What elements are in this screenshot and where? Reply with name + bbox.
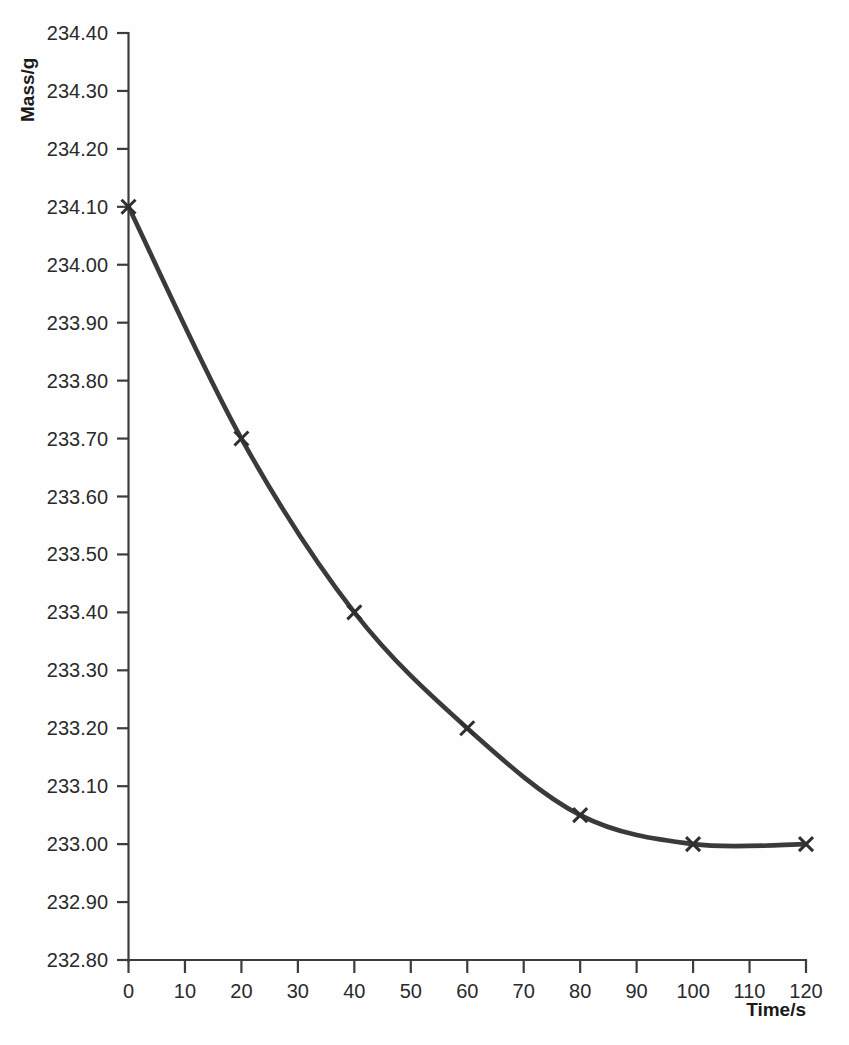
x-tick-label: 80 bbox=[569, 980, 591, 1002]
y-tick-label: 234.40 bbox=[47, 22, 108, 44]
y-tick-label: 233.80 bbox=[47, 370, 108, 392]
y-tick-label: 234.30 bbox=[47, 80, 108, 102]
data-point-marker bbox=[234, 432, 248, 446]
x-tick-label: 90 bbox=[626, 980, 648, 1002]
y-tick-label: 233.20 bbox=[47, 717, 108, 739]
data-point-markers-group bbox=[122, 200, 814, 851]
x-axis-title: Time/s bbox=[746, 999, 806, 1020]
y-tick-label: 234.00 bbox=[47, 254, 108, 276]
y-tick-label: 233.50 bbox=[47, 543, 108, 565]
y-tick-label: 233.70 bbox=[47, 428, 108, 450]
mass-decay-curve bbox=[129, 207, 807, 846]
y-tick-label: 233.60 bbox=[47, 486, 108, 508]
y-tick-label: 233.30 bbox=[47, 659, 108, 681]
mass-vs-time-line-chart: 234.40234.30234.20234.10234.00233.90233.… bbox=[0, 0, 849, 1045]
y-tick-label: 233.00 bbox=[47, 833, 108, 855]
y-tick-label: 234.10 bbox=[47, 196, 108, 218]
x-tick-label: 20 bbox=[230, 980, 252, 1002]
y-axis-title: Mass/g bbox=[17, 58, 38, 122]
x-tick-label: 40 bbox=[343, 980, 365, 1002]
x-tick-label: 30 bbox=[287, 980, 309, 1002]
x-tick-label: 0 bbox=[123, 980, 134, 1002]
data-point-marker bbox=[460, 721, 474, 735]
x-tick-label: 60 bbox=[456, 980, 478, 1002]
x-axis-ticks-group: 0102030405060708090100110120 bbox=[123, 960, 823, 1002]
y-tick-label: 232.90 bbox=[47, 891, 108, 913]
data-point-marker bbox=[347, 605, 361, 619]
y-tick-label: 233.40 bbox=[47, 601, 108, 623]
chart-container: 234.40234.30234.20234.10234.00233.90233.… bbox=[0, 0, 849, 1045]
x-tick-label: 50 bbox=[400, 980, 422, 1002]
x-tick-label: 10 bbox=[174, 980, 196, 1002]
y-tick-label: 233.90 bbox=[47, 312, 108, 334]
y-tick-label: 233.10 bbox=[47, 775, 108, 797]
x-tick-label: 70 bbox=[513, 980, 535, 1002]
y-axis-ticks-group: 234.40234.30234.20234.10234.00233.90233.… bbox=[47, 22, 129, 971]
y-tick-label: 232.80 bbox=[47, 949, 108, 971]
y-tick-label: 234.20 bbox=[47, 138, 108, 160]
x-tick-label: 100 bbox=[676, 980, 709, 1002]
